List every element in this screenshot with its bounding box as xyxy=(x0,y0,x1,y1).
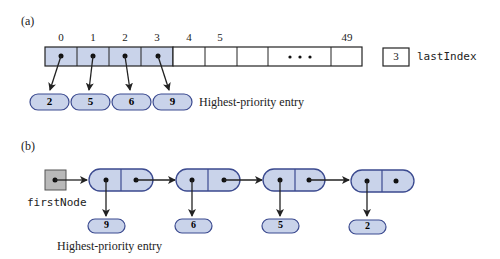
first-node-name: firstNode xyxy=(27,196,87,209)
array-entry-1: 5 xyxy=(71,95,110,107)
node-data-1: 6 xyxy=(175,219,212,230)
array-entry-3: 9 xyxy=(153,95,192,107)
part-b-label: (b) xyxy=(21,139,35,154)
node-data-3: 2 xyxy=(349,220,386,231)
highest-priority-caption-b: Highest-priority entry xyxy=(57,239,162,254)
linked-nodes xyxy=(89,169,414,216)
last-index-name: lastIndex xyxy=(417,50,477,63)
array-entry-0: 2 xyxy=(30,95,69,107)
node-data-pills xyxy=(88,219,386,234)
highest-priority-caption-a: Highest-priority entry xyxy=(199,95,304,110)
node-data-0: 9 xyxy=(88,219,125,230)
node-data-2: 5 xyxy=(262,219,299,230)
last-index-value: 3 xyxy=(383,50,409,62)
array-entry-2: 6 xyxy=(112,95,151,107)
diagram-canvas xyxy=(0,0,500,259)
